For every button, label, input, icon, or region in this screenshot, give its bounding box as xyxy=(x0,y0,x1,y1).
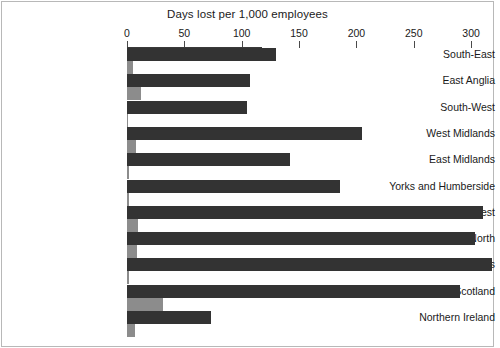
category-label: Yorks and Humberside xyxy=(372,180,495,193)
chart-category-row: North xyxy=(0,232,495,258)
category-label: East Anglia xyxy=(372,74,495,87)
bar-secondary xyxy=(127,298,163,311)
bar-primary xyxy=(127,258,492,271)
bar-primary xyxy=(127,206,483,219)
chart-category-row: East Anglia xyxy=(0,74,495,100)
chart-category-row: East Midlands xyxy=(0,153,495,179)
category-label: West Midlands xyxy=(372,127,495,140)
bar-secondary xyxy=(127,193,129,206)
chart-category-row: Yorks and Humberside xyxy=(0,180,495,206)
bar-secondary xyxy=(127,271,129,284)
chart-category-row: Northern Ireland xyxy=(0,311,495,337)
bar-primary xyxy=(127,232,475,245)
bar-primary xyxy=(127,74,250,87)
chart-category-row: South-West xyxy=(0,101,495,127)
bar-primary xyxy=(127,180,340,193)
bar-secondary xyxy=(127,61,133,74)
category-label: Northern Ireland xyxy=(372,311,495,324)
bar-secondary xyxy=(127,324,135,337)
chart-category-row: Scotland xyxy=(0,285,495,311)
chart-category-row: South-East xyxy=(0,48,495,74)
bar-primary xyxy=(127,48,276,61)
bar-secondary xyxy=(127,87,141,100)
bar-secondary xyxy=(127,219,138,232)
bar-primary xyxy=(127,127,362,140)
bar-secondary xyxy=(127,140,136,153)
bar-primary xyxy=(127,311,211,324)
category-label: East Midlands xyxy=(372,153,495,166)
bar-primary xyxy=(127,153,290,166)
chart-category-row: North-West xyxy=(0,206,495,232)
category-label: South-East xyxy=(372,48,495,61)
chart-category-row: Wales xyxy=(0,258,495,284)
category-label: South-West xyxy=(372,101,495,114)
chart-category-row: West Midlands xyxy=(0,127,495,153)
bar-primary xyxy=(127,285,460,298)
bar-secondary xyxy=(127,245,137,258)
bar-primary xyxy=(127,101,247,114)
bar-secondary xyxy=(127,166,129,179)
bar-secondary xyxy=(127,114,128,127)
